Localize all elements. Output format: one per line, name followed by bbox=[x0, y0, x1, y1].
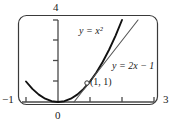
parabola-curve bbox=[26, 20, 122, 102]
origin-label: 0 bbox=[55, 110, 61, 121]
graph-figure: 4 −1 3 0 y = x² y = 2x − 1 (1, 1) bbox=[0, 0, 173, 124]
x-axis-max-label: 3 bbox=[163, 94, 169, 105]
x-axis-min-label: −1 bbox=[2, 94, 14, 105]
y-axis-ticks bbox=[53, 20, 58, 81]
tangency-point-label: (1, 1) bbox=[90, 77, 112, 87]
tangency-point-marker bbox=[85, 81, 89, 85]
parabola-equation-label: y = x² bbox=[79, 26, 103, 36]
tangent-equation-label: y = 2x − 1 bbox=[112, 61, 154, 71]
y-axis-max-label: 4 bbox=[53, 2, 59, 13]
